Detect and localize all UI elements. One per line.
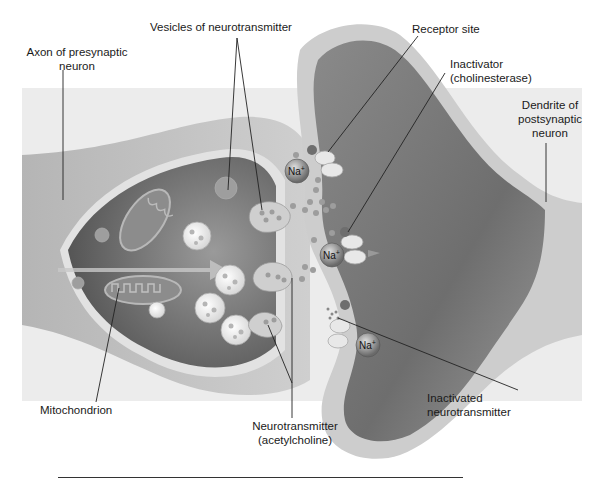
label-axon: Axon of presynaptic neuron xyxy=(22,45,132,73)
label-inactivator: Inactivator (cholinesterase) xyxy=(450,57,532,85)
label-inactivator-line-1: Inactivator xyxy=(450,57,532,71)
label-receptor-site: Receptor site xyxy=(412,22,480,36)
label-inactivator-line-2: (cholinesterase) xyxy=(450,71,532,85)
label-inactivated-line-2: neurotransmitter xyxy=(427,405,511,419)
label-axon-line-1: Axon of presynaptic xyxy=(22,45,132,59)
label-neurotransmitter-line-2: (acetylcholine) xyxy=(240,433,350,447)
label-dendrite: Dendrite of postsynaptic neuron xyxy=(510,98,590,140)
label-neurotransmitter: Neurotransmitter (acetylcholine) xyxy=(240,419,350,447)
label-inactivated-neurotransmitter: Inactivated neurotransmitter xyxy=(427,391,511,419)
label-dendrite-line-2: postsynaptic xyxy=(510,112,590,126)
label-inactivated-line-1: Inactivated xyxy=(427,391,511,405)
label-neurotransmitter-line-1: Neurotransmitter xyxy=(240,419,350,433)
label-axon-line-2: neuron xyxy=(22,59,132,73)
bottom-divider xyxy=(58,477,463,478)
label-dendrite-line-3: neuron xyxy=(510,126,590,140)
label-dendrite-line-1: Dendrite of xyxy=(510,98,590,112)
label-vesicles: Vesicles of neurotransmitter xyxy=(150,20,292,34)
label-mitochondrion: Mitochondrion xyxy=(40,403,112,417)
